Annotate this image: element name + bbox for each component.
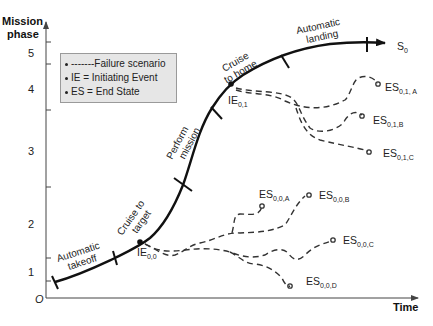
origin-label: O [35, 293, 44, 305]
y-tick-label: 3 [28, 145, 34, 157]
y-axis-title-line2: phase [7, 28, 39, 40]
legend-item-end-state: ES = End State [65, 85, 172, 99]
failure-scenarios-ie01 [236, 76, 380, 154]
end-state-label: ES0,1,B [373, 114, 404, 128]
end-state-label: ES0,0,D [306, 275, 337, 289]
bullet-icon [65, 91, 68, 94]
y-tick-label: 5 [28, 47, 34, 59]
end-state-label: ES0,0,A [259, 188, 290, 202]
bullet-icon [65, 63, 68, 66]
phase-label-takeoff: Automatic takeoff [55, 240, 104, 275]
initiating-event-label: IE0,0 [137, 246, 157, 260]
legend: -------Failure scenario IE = Initiating … [60, 53, 177, 103]
phase-label-landing: Automatic landing [295, 16, 343, 47]
y-axis-title-line1: Mission [2, 15, 43, 27]
end-state-label: ES0,1, A [385, 81, 417, 95]
phase-label-cruise-target: Cruise to target [115, 198, 156, 244]
initiating-event-dot [137, 239, 143, 245]
y-tick-label: 1 [28, 266, 34, 278]
initiating-event-label: IE0,1 [228, 94, 248, 108]
y-tick-label: 4 [28, 83, 34, 95]
mission-phase-diagram: Mission phase Time O 1 2 3 4 5 Automatic… [0, 0, 433, 326]
end-state-label: ES0,0,C [343, 234, 374, 248]
success-state-label: S0 [397, 40, 408, 54]
end-state-label: ES0,1,C [383, 147, 414, 161]
end-state-label: ES0,0,B [319, 189, 350, 203]
x-axis-title: Time [393, 301, 418, 313]
y-tick-label: 2 [28, 218, 34, 230]
legend-item-initiating-event: IE = Initiating Event [65, 71, 172, 85]
y-axis-ticks [46, 42, 51, 281]
bullet-icon [65, 77, 68, 80]
legend-item-failure-scenario: -------Failure scenario [65, 57, 172, 71]
